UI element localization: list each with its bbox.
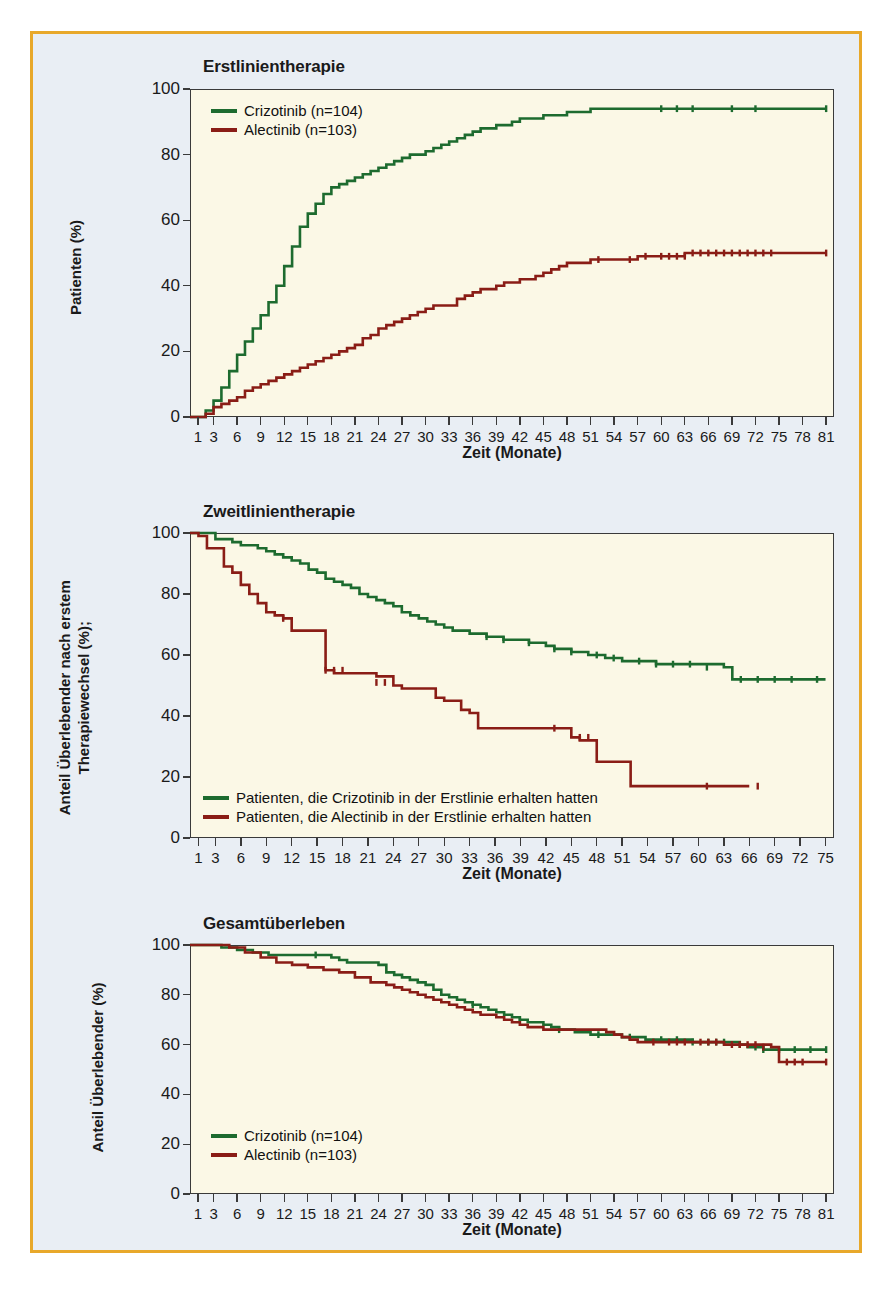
panel-2-title: Zweitlinientherapie bbox=[203, 502, 355, 522]
x-tick-label: 27 bbox=[394, 1205, 411, 1222]
x-tick-label: 30 bbox=[417, 428, 434, 445]
x-tick-mark bbox=[684, 1194, 685, 1202]
y-tick-label: 20 bbox=[128, 1134, 180, 1154]
y-tick-label: 60 bbox=[128, 1035, 180, 1055]
legend-item: Alectinib (n=103) bbox=[211, 121, 363, 138]
x-tick-label: 45 bbox=[535, 428, 552, 445]
x-tick-mark bbox=[213, 1194, 214, 1202]
x-tick-mark bbox=[378, 417, 379, 425]
y-tick-mark bbox=[183, 220, 190, 221]
legend-item: Crizotinib (n=104) bbox=[211, 1127, 363, 1144]
y-tick-mark bbox=[183, 837, 190, 838]
x-tick-mark bbox=[672, 838, 673, 846]
x-tick-mark bbox=[425, 1194, 426, 1202]
x-tick-mark bbox=[731, 417, 732, 425]
y-tick-mark bbox=[183, 1094, 190, 1095]
y-tick-mark bbox=[183, 944, 190, 945]
x-tick-label: 54 bbox=[639, 849, 656, 866]
panel-1-y-axis-label: Patienten (%) bbox=[67, 188, 84, 348]
x-tick-mark bbox=[401, 1194, 402, 1202]
legend-swatch-alectinib bbox=[203, 815, 229, 819]
x-tick-mark bbox=[307, 1194, 308, 1202]
legend-item: Alectinib (n=103) bbox=[211, 1146, 363, 1163]
x-tick-label: 3 bbox=[211, 849, 219, 866]
legend-label: Patienten, die Crizotinib in der Erstlin… bbox=[236, 789, 598, 806]
x-tick-label: 15 bbox=[299, 1205, 316, 1222]
x-tick-mark bbox=[448, 417, 449, 425]
panel-2-legend: Patienten, die Crizotinib in der Erstlin… bbox=[203, 789, 598, 828]
x-tick-label: 1 bbox=[194, 849, 202, 866]
x-tick-mark bbox=[698, 838, 699, 846]
x-tick-label: 51 bbox=[582, 428, 599, 445]
x-tick-mark bbox=[266, 838, 267, 846]
x-tick-label: 18 bbox=[323, 428, 340, 445]
x-tick-mark bbox=[469, 838, 470, 846]
x-tick-mark bbox=[799, 838, 800, 846]
y-tick-label: 40 bbox=[128, 276, 180, 296]
x-tick-label: 72 bbox=[747, 1205, 764, 1222]
x-tick-label: 33 bbox=[441, 1205, 458, 1222]
x-tick-mark bbox=[774, 838, 775, 846]
x-tick-label: 75 bbox=[771, 428, 788, 445]
x-tick-label: 24 bbox=[370, 1205, 387, 1222]
legend-label: Alectinib (n=103) bbox=[244, 121, 357, 138]
x-tick-label: 66 bbox=[700, 1205, 717, 1222]
panel-2-x-axis-label: Zeit (Monate) bbox=[462, 865, 562, 883]
y-tick-mark bbox=[183, 154, 190, 155]
legend-item: Crizotinib (n=104) bbox=[211, 102, 363, 119]
series-line bbox=[190, 945, 826, 1050]
x-tick-label: 33 bbox=[461, 849, 478, 866]
x-tick-label: 42 bbox=[538, 849, 555, 866]
x-tick-mark bbox=[519, 1194, 520, 1202]
x-tick-mark bbox=[496, 417, 497, 425]
legend-item: Patienten, die Alectinib in der Erstlini… bbox=[203, 808, 598, 825]
y-tick-mark bbox=[183, 285, 190, 286]
x-tick-label: 6 bbox=[237, 849, 245, 866]
panel-1-title: Erstlinientherapie bbox=[203, 57, 345, 77]
x-tick-label: 75 bbox=[817, 849, 834, 866]
x-tick-label: 63 bbox=[676, 1205, 693, 1222]
x-tick-mark bbox=[448, 1194, 449, 1202]
x-tick-label: 36 bbox=[464, 428, 481, 445]
x-tick-mark bbox=[596, 838, 597, 846]
x-tick-label: 6 bbox=[233, 1205, 241, 1222]
x-tick-label: 21 bbox=[347, 1205, 364, 1222]
y-tick-label: 80 bbox=[128, 584, 180, 604]
x-tick-label: 39 bbox=[512, 849, 529, 866]
y-tick-label: 80 bbox=[128, 145, 180, 165]
x-tick-label: 42 bbox=[512, 1205, 529, 1222]
legend-label: Crizotinib (n=104) bbox=[244, 102, 363, 119]
x-tick-mark bbox=[520, 838, 521, 846]
x-tick-mark bbox=[647, 838, 648, 846]
x-tick-label: 3 bbox=[209, 1205, 217, 1222]
y-tick-mark bbox=[183, 88, 190, 89]
x-tick-label: 60 bbox=[653, 1205, 670, 1222]
x-tick-label: 9 bbox=[262, 849, 270, 866]
legend-swatch-alectinib bbox=[211, 128, 237, 132]
series-line bbox=[190, 109, 826, 417]
x-tick-mark bbox=[367, 838, 368, 846]
x-tick-label: 63 bbox=[715, 849, 732, 866]
x-tick-mark bbox=[708, 417, 709, 425]
x-tick-label: 24 bbox=[385, 849, 402, 866]
y-tick-label: 100 bbox=[128, 79, 180, 99]
x-tick-label: 15 bbox=[309, 849, 326, 866]
x-tick-mark bbox=[378, 1194, 379, 1202]
y-tick-label: 100 bbox=[128, 935, 180, 955]
x-tick-label: 6 bbox=[233, 428, 241, 445]
x-tick-mark bbox=[802, 1194, 803, 1202]
y-tick-label: 0 bbox=[128, 407, 180, 427]
x-tick-mark bbox=[755, 417, 756, 425]
x-tick-mark bbox=[825, 1194, 826, 1202]
x-tick-mark bbox=[825, 838, 826, 846]
x-tick-label: 30 bbox=[417, 1205, 434, 1222]
x-tick-label: 33 bbox=[441, 428, 458, 445]
x-tick-mark bbox=[723, 838, 724, 846]
x-tick-mark bbox=[545, 838, 546, 846]
legend-swatch-crizotinib bbox=[211, 109, 237, 113]
x-tick-mark bbox=[284, 1194, 285, 1202]
x-tick-label: 45 bbox=[563, 849, 580, 866]
x-tick-label: 18 bbox=[323, 1205, 340, 1222]
legend-swatch-alectinib bbox=[211, 1153, 237, 1157]
x-tick-label: 36 bbox=[464, 1205, 481, 1222]
